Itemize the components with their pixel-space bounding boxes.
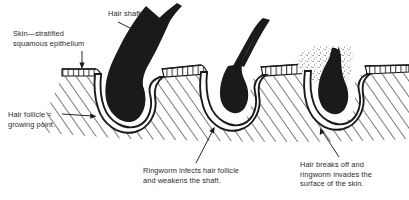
label-hair-follicle-growing-point: Hair follicle = growing point. xyxy=(8,110,84,129)
label-hair-breaks-off-ringworm-invades: Hair breaks off and ringworm invades the… xyxy=(300,160,408,189)
label-ringworm-infects-hair-follicle: Ringworm infects hair follicle and weake… xyxy=(143,166,265,185)
label-hair-shaft: Hair shaft xyxy=(108,9,168,19)
pointer-skin-to-epithelium xyxy=(79,51,84,69)
label-skin-stratified-squamous-epithelium: Skin—stratified squamous epithelium xyxy=(13,29,109,48)
ringworm-hair-follicle-diagram: Skin—stratified squamous epithelium Hair… xyxy=(0,0,409,200)
